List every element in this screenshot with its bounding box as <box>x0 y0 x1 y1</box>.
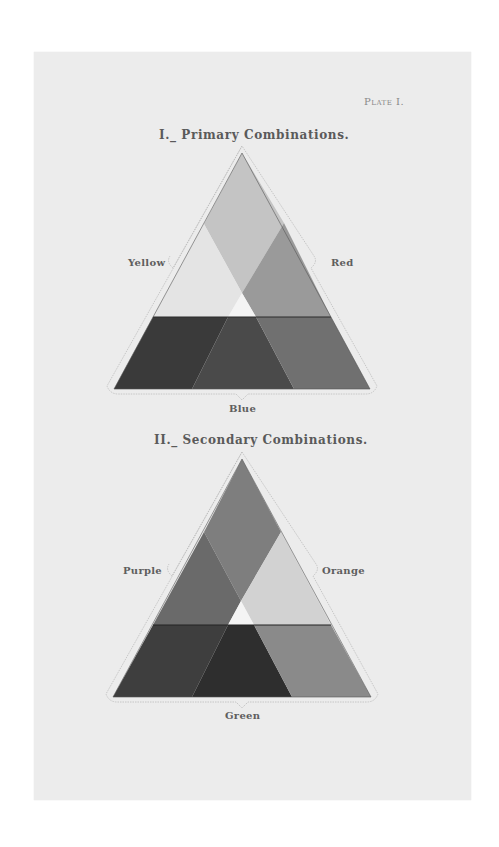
label-green: Green <box>225 710 260 721</box>
label-purple: Purple <box>123 565 162 576</box>
label-orange: Orange <box>322 565 365 576</box>
